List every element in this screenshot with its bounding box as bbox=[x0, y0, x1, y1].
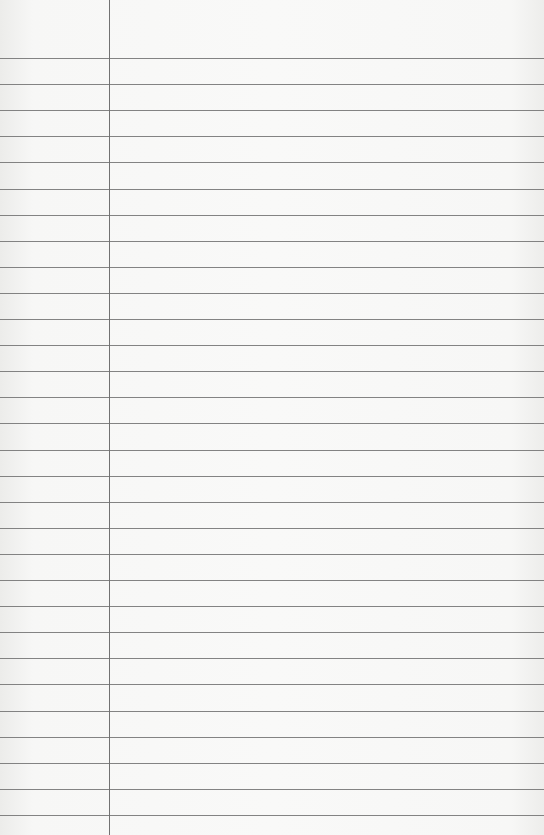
ruled-line bbox=[0, 189, 544, 190]
ruled-line bbox=[0, 763, 544, 764]
ruled-line bbox=[0, 84, 544, 85]
ruled-line bbox=[0, 397, 544, 398]
ruled-line bbox=[0, 632, 544, 633]
ruled-line bbox=[0, 319, 544, 320]
ruled-line bbox=[0, 162, 544, 163]
ruled-line bbox=[0, 528, 544, 529]
ruled-line bbox=[0, 110, 544, 111]
ruled-line bbox=[0, 580, 544, 581]
margin-line bbox=[109, 0, 110, 835]
ruled-line bbox=[0, 241, 544, 242]
ruled-line bbox=[0, 293, 544, 294]
ruled-line bbox=[0, 136, 544, 137]
ruled-line bbox=[0, 423, 544, 424]
ruled-line bbox=[0, 450, 544, 451]
ruled-line bbox=[0, 658, 544, 659]
ruled-line bbox=[0, 684, 544, 685]
ruled-line bbox=[0, 215, 544, 216]
ruled-line bbox=[0, 58, 544, 59]
lined-paper bbox=[0, 0, 544, 835]
ruled-line bbox=[0, 345, 544, 346]
ruled-line bbox=[0, 267, 544, 268]
ruled-line bbox=[0, 789, 544, 790]
ruled-line bbox=[0, 711, 544, 712]
ruled-line bbox=[0, 606, 544, 607]
ruled-line bbox=[0, 815, 544, 816]
ruled-line bbox=[0, 502, 544, 503]
ruled-line bbox=[0, 476, 544, 477]
ruled-line bbox=[0, 737, 544, 738]
ruled-line bbox=[0, 371, 544, 372]
ruled-line bbox=[0, 554, 544, 555]
